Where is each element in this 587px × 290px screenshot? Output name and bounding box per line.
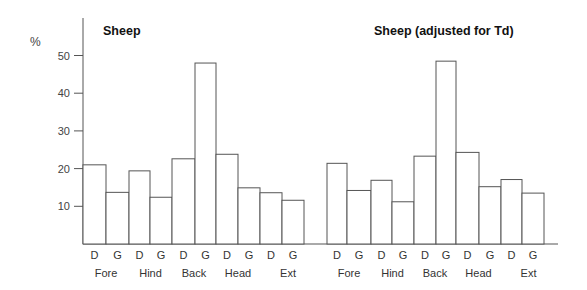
- y-axis-unit-label: %: [30, 35, 41, 49]
- group-label-ext: Ext: [280, 267, 296, 279]
- bar-category-label: G: [113, 249, 122, 261]
- bar-back-g: [195, 63, 216, 244]
- group-label-head: Head: [225, 267, 251, 279]
- group-label-fore: Fore: [338, 267, 361, 279]
- bar-category-label: G: [157, 249, 166, 261]
- y-tick-label: 20: [58, 163, 70, 175]
- bar-chart-figure: % 1020304050 Sheep DGDGDGDGDGForeHindBac…: [0, 0, 587, 290]
- bar-back-g: [436, 61, 456, 244]
- bar-hind-g: [392, 202, 414, 244]
- y-tick-label: 30: [58, 125, 70, 137]
- group-label-back: Back: [182, 267, 207, 279]
- bar-category-label: D: [136, 249, 144, 261]
- bar-category-label: G: [289, 249, 298, 261]
- bar-category-label: D: [464, 249, 472, 261]
- bar-category-label: D: [333, 249, 341, 261]
- bar-category-label: D: [223, 249, 231, 261]
- bar-back-d: [172, 159, 195, 244]
- chart-title: Sheep: [103, 24, 141, 38]
- bar-category-label: G: [399, 249, 408, 261]
- group-label-ext: Ext: [521, 267, 537, 279]
- bar-head-d: [456, 152, 479, 244]
- y-tick-label: 50: [58, 50, 70, 62]
- chart-canvas: % 1020304050 Sheep DGDGDGDGDGForeHindBac…: [0, 0, 587, 290]
- bar-category-label: G: [355, 249, 364, 261]
- group-label-hind: Hind: [139, 267, 162, 279]
- y-axis: 1020304050: [58, 18, 83, 244]
- bar-ext-d: [501, 180, 522, 244]
- bar-category-label: D: [508, 249, 516, 261]
- bar-head-g: [238, 188, 260, 244]
- group-label-head: Head: [465, 267, 491, 279]
- bar-category-label: D: [378, 249, 386, 261]
- y-tick-label: 40: [58, 87, 70, 99]
- bar-fore-g: [347, 190, 371, 244]
- bar-back-d: [414, 156, 436, 244]
- bar-ext-g: [282, 200, 304, 244]
- bar-hind-g: [150, 197, 172, 244]
- y-tick-label: 10: [58, 200, 70, 212]
- bar-fore-g: [106, 192, 129, 244]
- group-label-hind: Hind: [381, 267, 404, 279]
- bar-category-label: G: [201, 249, 210, 261]
- bar-ext-d: [260, 193, 282, 244]
- bar-category-label: G: [486, 249, 495, 261]
- bar-category-label: G: [529, 249, 538, 261]
- bar-fore-d: [327, 163, 347, 244]
- bar-head-d: [216, 154, 238, 244]
- bar-category-label: D: [180, 249, 188, 261]
- bar-hind-d: [371, 180, 392, 244]
- bar-category-label: D: [421, 249, 429, 261]
- bar-category-label: D: [267, 249, 275, 261]
- group-label-fore: Fore: [95, 267, 118, 279]
- bar-category-label: G: [245, 249, 254, 261]
- chart-panel-sheep-adjusted: Sheep (adjusted for Td) DGDGDGDGDGForeHi…: [327, 24, 558, 279]
- bar-fore-d: [83, 165, 106, 244]
- chart-panel-sheep: Sheep DGDGDGDGDGForeHindBackHeadExt: [83, 24, 327, 279]
- bar-hind-d: [129, 171, 150, 244]
- bar-head-g: [479, 187, 501, 244]
- chart-title: Sheep (adjusted for Td): [374, 24, 514, 38]
- bar-category-label: G: [442, 249, 451, 261]
- bar-category-label: D: [91, 249, 99, 261]
- group-label-back: Back: [423, 267, 448, 279]
- bar-ext-g: [522, 193, 544, 244]
